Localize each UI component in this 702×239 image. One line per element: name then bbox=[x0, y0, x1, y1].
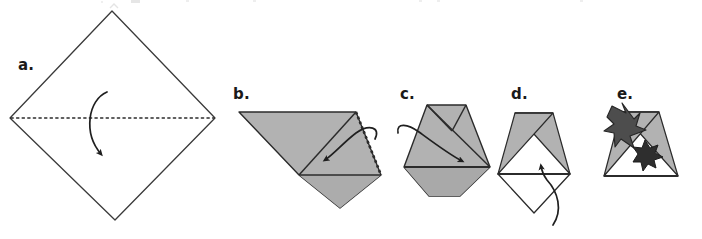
step-e-group: e. bbox=[604, 85, 678, 176]
step-b-lower-layer bbox=[299, 175, 381, 208]
step-a-label: a. bbox=[18, 56, 34, 74]
step-d-label: d. bbox=[511, 85, 528, 103]
step-c-lower-layer bbox=[404, 167, 490, 196]
origami-diagram-figure: a. b. bbox=[0, 0, 702, 239]
step-e-label: e. bbox=[617, 85, 633, 103]
step-a-group: a. bbox=[10, 11, 215, 220]
step-a-square-sheet bbox=[10, 11, 215, 220]
step-d-group: d. bbox=[498, 85, 570, 225]
step-b-group: b. bbox=[233, 85, 381, 208]
step-b-paper-body bbox=[239, 112, 381, 208]
step-c-label: c. bbox=[400, 85, 415, 103]
cropped-caption-remnants bbox=[101, 0, 583, 8]
step-b-label: b. bbox=[233, 85, 250, 103]
origami-diagram-svg: a. b. bbox=[0, 0, 702, 239]
step-c-group: c. bbox=[398, 85, 490, 196]
